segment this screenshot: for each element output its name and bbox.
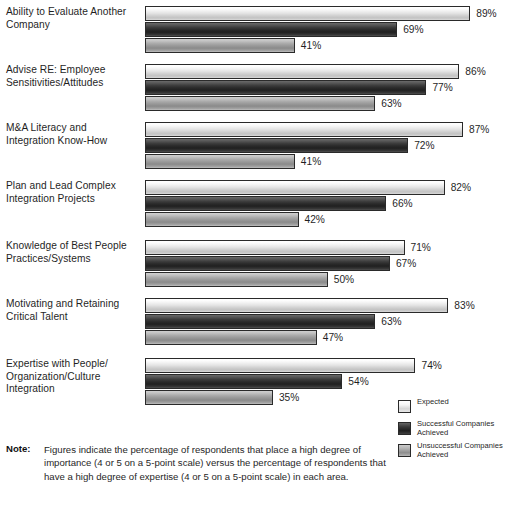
bar-row: 50% — [145, 272, 505, 288]
bar-unsuccessful — [145, 212, 299, 227]
category-label-line: Integration — [6, 383, 140, 396]
bar-value-label: 82% — [451, 181, 471, 194]
category-label: M&A Literacy andIntegration Know-How — [6, 122, 140, 147]
bar-row: 41% — [145, 154, 505, 170]
bar-row: 54% — [145, 374, 505, 390]
bar-expected — [145, 358, 415, 373]
category-label-line: Critical Talent — [6, 311, 140, 324]
bar-row: 82% — [145, 180, 505, 196]
bar-successful — [145, 256, 390, 271]
bar-row: 72% — [145, 138, 505, 154]
chart-legend: ExpectedSuccessful CompaniesAchievedUnsu… — [398, 399, 510, 465]
chart-group: Plan and Lead ComplexIntegration Project… — [0, 180, 510, 228]
category-label: Motivating and RetainingCritical Talent — [6, 298, 140, 323]
bar-row: 71% — [145, 240, 505, 256]
chart-group: Advise RE: EmployeeSensitivities/Attitud… — [0, 64, 510, 112]
bar-value-label: 74% — [421, 359, 441, 372]
legend-item: Successful CompaniesAchieved — [398, 421, 510, 443]
legend-swatch-unsuccessful — [398, 444, 411, 457]
bar-value-label: 35% — [279, 391, 299, 404]
bar-successful — [145, 22, 397, 37]
bar-row: 83% — [145, 298, 505, 314]
bar-value-label: 83% — [454, 299, 474, 312]
note-text: Figures indicate the percentage of respo… — [44, 443, 396, 483]
bar-value-label: 77% — [432, 81, 452, 94]
bar-expected — [145, 240, 405, 255]
bar-row: 86% — [145, 64, 505, 80]
category-label-line: M&A Literacy and — [6, 122, 140, 135]
category-label-line: Practices/Systems — [6, 253, 140, 266]
bar-group: 89%69%41% — [145, 6, 505, 54]
bar-group: 87%72%41% — [145, 122, 505, 170]
category-label: Advise RE: EmployeeSensitivities/Attitud… — [6, 64, 140, 89]
bar-value-label: 50% — [334, 273, 354, 286]
bar-value-label: 71% — [411, 241, 431, 254]
bar-row: 42% — [145, 212, 505, 228]
bar-value-label: 63% — [381, 97, 401, 110]
category-label: Expertise with People/Organization/Cultu… — [6, 358, 140, 396]
bar-value-label: 41% — [301, 155, 321, 168]
bar-row: 63% — [145, 96, 505, 112]
category-label-line: Organization/Culture — [6, 371, 140, 384]
bar-value-label: 63% — [381, 315, 401, 328]
legend-label-line: Achieved — [417, 429, 509, 438]
chart-group: Motivating and RetainingCritical Talent8… — [0, 298, 510, 346]
bar-successful — [145, 374, 342, 389]
category-label-line: Advise RE: Employee — [6, 64, 140, 77]
bar-value-label: 69% — [403, 23, 423, 36]
bar-value-label: 42% — [305, 213, 325, 226]
legend-swatch-expected — [398, 400, 411, 413]
bar-value-label: 89% — [476, 7, 496, 20]
bar-unsuccessful — [145, 154, 295, 169]
bar-group: 86%77%63% — [145, 64, 505, 112]
bar-row: 89% — [145, 6, 505, 22]
bar-group: 83%63%47% — [145, 298, 505, 346]
chart-group: M&A Literacy andIntegration Know-How87%7… — [0, 122, 510, 170]
bar-row: 67% — [145, 256, 505, 272]
bar-value-label: 41% — [301, 39, 321, 52]
category-label-line: Company — [6, 19, 140, 32]
category-label-line: Motivating and Retaining — [6, 298, 140, 311]
legend-label-line: Expected — [417, 398, 509, 407]
bar-expected — [145, 64, 459, 79]
bar-successful — [145, 314, 375, 329]
bar-successful — [145, 80, 426, 95]
legend-label: Unsuccessful CompaniesAchieved — [417, 442, 509, 459]
chart-group: Ability to Evaluate AnotherCompany89%69%… — [0, 6, 510, 54]
legend-label: Successful CompaniesAchieved — [417, 420, 509, 437]
category-label-line: Integration Projects — [6, 193, 140, 206]
legend-swatch-successful — [398, 422, 411, 435]
chart-group: Knowledge of Best PeoplePractices/System… — [0, 240, 510, 288]
legend-item: Expected — [398, 399, 510, 421]
bar-value-label: 66% — [392, 197, 412, 210]
bar-unsuccessful — [145, 38, 295, 53]
category-label-line: Sensitivities/Attitudes — [6, 77, 140, 90]
bar-successful — [145, 138, 408, 153]
bar-expected — [145, 6, 470, 21]
bar-row: 87% — [145, 122, 505, 138]
bar-value-label: 87% — [469, 123, 489, 136]
bar-row: 66% — [145, 196, 505, 212]
bar-group: 82%66%42% — [145, 180, 505, 228]
bar-unsuccessful — [145, 390, 273, 405]
bar-row: 69% — [145, 22, 505, 38]
bar-unsuccessful — [145, 96, 375, 111]
bar-group: 71%67%50% — [145, 240, 505, 288]
bar-value-label: 54% — [348, 375, 368, 388]
bar-expected — [145, 298, 448, 313]
bar-row: 74% — [145, 358, 505, 374]
bar-value-label: 67% — [396, 257, 416, 270]
category-label: Ability to Evaluate AnotherCompany — [6, 6, 140, 31]
category-label: Knowledge of Best PeoplePractices/System… — [6, 240, 140, 265]
bar-successful — [145, 196, 386, 211]
bar-row: 63% — [145, 314, 505, 330]
category-label-line: Knowledge of Best People — [6, 240, 140, 253]
category-label: Plan and Lead ComplexIntegration Project… — [6, 180, 140, 205]
bar-unsuccessful — [145, 272, 328, 287]
category-label-line: Ability to Evaluate Another — [6, 6, 140, 19]
category-label-line: Expertise with People/ — [6, 358, 140, 371]
legend-label: Expected — [417, 398, 509, 407]
bar-row: 77% — [145, 80, 505, 96]
category-label-line: Plan and Lead Complex — [6, 180, 140, 193]
category-label-line: Integration Know-How — [6, 135, 140, 148]
